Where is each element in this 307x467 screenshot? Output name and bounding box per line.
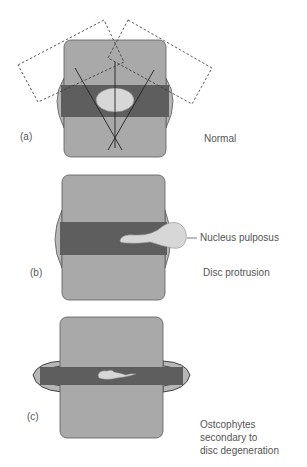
panel-c-caption-line-3: disc degeneration bbox=[200, 444, 279, 457]
panel-a-vertebra bbox=[18, 20, 212, 157]
panel-b-caption: Disc protrusion bbox=[203, 266, 270, 279]
panel-c-marker: (c) bbox=[27, 410, 39, 423]
panel-a-caption: Normal bbox=[204, 132, 236, 145]
nucleus-pulposus-callout: Nucleus pulposus bbox=[200, 231, 279, 244]
panel-a-marker: (a) bbox=[20, 130, 32, 143]
panel-c-caption-line-2: secondary to bbox=[200, 431, 257, 444]
panel-b-vertebra bbox=[55, 175, 197, 300]
panel-c-caption-line-1: Ostcophytes bbox=[200, 418, 256, 431]
panel-b-marker: (b) bbox=[30, 266, 42, 279]
panel-c-vertebra bbox=[33, 317, 190, 438]
